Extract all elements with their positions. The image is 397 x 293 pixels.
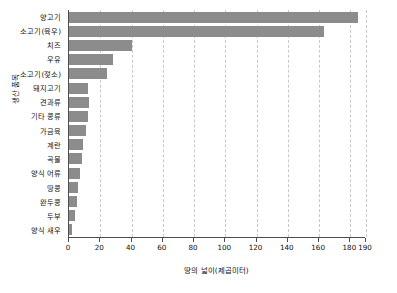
x-axis-tick-mark xyxy=(318,238,319,242)
x-axis-tick-mark xyxy=(193,238,194,242)
bar xyxy=(69,83,88,94)
x-axis-tick-label: 20 xyxy=(95,243,104,252)
x-axis-ticks: 020406080100120140160180190 xyxy=(68,238,365,258)
bar xyxy=(69,54,113,65)
x-axis-title: 땅의 넓이(제곱미터) xyxy=(68,264,365,275)
bar xyxy=(69,111,88,122)
x-axis-tick-label: 60 xyxy=(157,243,166,252)
bar-row xyxy=(69,168,365,179)
bar-row xyxy=(69,224,365,235)
y-axis-category-label: 양식 새우 xyxy=(0,225,66,236)
plot-area xyxy=(68,10,365,238)
y-axis-category-label: 양식 어류 xyxy=(0,168,66,179)
bar xyxy=(69,26,324,37)
x-axis-tick-label: 140 xyxy=(280,243,294,252)
y-axis-category-label: 돼지고기 xyxy=(0,83,66,94)
y-axis-category-label: 두부 xyxy=(0,211,66,222)
bar-row xyxy=(69,210,365,221)
bar-row xyxy=(69,68,365,79)
y-axis-category-label: 견과류 xyxy=(0,97,66,108)
x-axis-tick-label: 120 xyxy=(249,243,263,252)
bar-row xyxy=(69,139,365,150)
bar xyxy=(69,153,82,164)
y-axis-category-label: 치즈 xyxy=(0,40,66,51)
bar xyxy=(69,40,132,51)
x-axis-tick-label: 180 xyxy=(343,243,357,252)
bar-row xyxy=(69,153,365,164)
bar xyxy=(69,210,75,221)
y-axis-category-label: 곡물 xyxy=(0,154,66,165)
bar-series xyxy=(69,10,365,237)
x-axis-tick-mark xyxy=(99,238,100,242)
y-axis-category-label: 완두콩 xyxy=(0,197,66,208)
bar xyxy=(69,97,89,108)
y-axis-category-labels: 양고기소고기(육우)치즈우유소고기(젖소)돼지고기견과류기타 콩류가금육계란곡물… xyxy=(0,10,66,238)
bar-row xyxy=(69,26,365,37)
gridline xyxy=(366,10,367,237)
bar-row xyxy=(69,12,365,23)
bar-row xyxy=(69,97,365,108)
bar-row xyxy=(69,196,365,207)
bar-row xyxy=(69,111,365,122)
x-axis-tick-label: 160 xyxy=(311,243,325,252)
bar xyxy=(69,68,107,79)
bar xyxy=(69,182,78,193)
x-axis-tick-label: 0 xyxy=(66,243,71,252)
x-axis-tick-mark xyxy=(256,238,257,242)
x-axis-tick-mark xyxy=(131,238,132,242)
y-axis-category-label: 양고기 xyxy=(0,12,66,23)
x-axis-tick-mark xyxy=(349,238,350,242)
y-axis-category-label: 기타 콩류 xyxy=(0,111,66,122)
x-axis-tick-label: 40 xyxy=(126,243,135,252)
bar-chart: 생산 품목 양고기소고기(육우)치즈우유소고기(젖소)돼지고기견과류기타 콩류가… xyxy=(0,0,397,293)
y-axis-category-label: 소고기(젖소) xyxy=(0,69,66,80)
x-axis-tick-mark xyxy=(68,238,69,242)
x-axis-tick-label: 190 xyxy=(358,243,372,252)
x-axis-tick-label: 100 xyxy=(217,243,231,252)
bar-row xyxy=(69,83,365,94)
x-axis-tick-mark xyxy=(287,238,288,242)
y-axis-category-label: 우유 xyxy=(0,54,66,65)
bar-row xyxy=(69,125,365,136)
y-axis-category-label: 계란 xyxy=(0,140,66,151)
x-axis-tick-mark xyxy=(224,238,225,242)
bar xyxy=(69,196,77,207)
x-axis-tick-label: 80 xyxy=(188,243,197,252)
bar xyxy=(69,12,358,23)
bar xyxy=(69,168,80,179)
bar-row xyxy=(69,182,365,193)
bar xyxy=(69,224,72,235)
bar-row xyxy=(69,40,365,51)
bar xyxy=(69,139,83,150)
x-axis-tick-mark xyxy=(162,238,163,242)
x-axis-tick-mark xyxy=(365,238,366,242)
y-axis-category-label: 가금육 xyxy=(0,126,66,137)
y-axis-category-label: 소고기(육우) xyxy=(0,26,66,37)
bar-row xyxy=(69,54,365,65)
y-axis-category-label: 땅콩 xyxy=(0,183,66,194)
bar xyxy=(69,125,86,136)
